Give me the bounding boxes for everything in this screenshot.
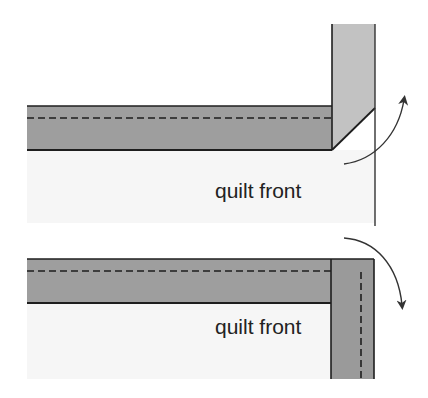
quilt-front-label-top: quilt front [215,179,302,202]
bottom-panel: quilt front [27,238,402,379]
binding-strip-horizontal-bottom [27,259,331,303]
binding-strip-horizontal-top [27,106,332,150]
quilt-front-label-bottom: quilt front [215,315,302,338]
top-panel: quilt front [27,24,404,226]
quilt-front-top [27,150,375,223]
binding-folded-down [331,259,374,379]
binding-folded-up [332,24,375,150]
binding-diagram: quilt front quilt front [0,0,428,398]
